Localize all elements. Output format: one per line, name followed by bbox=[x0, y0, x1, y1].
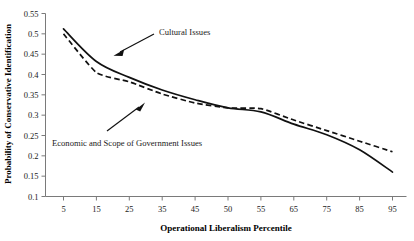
x-axis-title: Operational Liberalism Percentile bbox=[160, 223, 291, 233]
x-tick-label: 85 bbox=[355, 204, 364, 214]
y-tick-label: 0.55 bbox=[24, 9, 39, 19]
line-chart: Probability of Conservative Identificati… bbox=[0, 0, 414, 241]
x-tick-label: 15 bbox=[92, 204, 101, 214]
annotation-label-economic-scope-government: Economic and Scope of Government Issues bbox=[52, 138, 203, 148]
annotation-arrow-head-cultural bbox=[114, 50, 125, 56]
annotation-label-cultural-issues: Cultural Issues bbox=[159, 27, 211, 37]
y-axis-title: Probability of Conservative Identificati… bbox=[3, 24, 13, 184]
x-tick-label: 5 bbox=[61, 204, 65, 214]
y-tick-label: 0.4 bbox=[28, 70, 39, 80]
y-tick-label: 0.25 bbox=[24, 131, 39, 141]
x-tick-label: 55 bbox=[257, 204, 266, 214]
annotation-arrow-line-cultural bbox=[120, 34, 154, 52]
x-tick-label: 95 bbox=[388, 204, 397, 214]
y-tick-label: 0.5 bbox=[28, 29, 39, 39]
x-tick-label: 35 bbox=[158, 204, 167, 214]
chart-container: Probability of Conservative Identificati… bbox=[0, 0, 414, 241]
x-tick-label: 50 bbox=[224, 204, 233, 214]
y-tick-label: 0.2 bbox=[28, 151, 39, 161]
x-tick-label: 25 bbox=[125, 204, 134, 214]
x-axis-ticks: 515253545505565758595 bbox=[61, 197, 396, 214]
y-axis-ticks: 0.10.150.20.250.30.350.40.450.50.55 bbox=[24, 9, 46, 202]
series-line-cultural-issues bbox=[64, 29, 393, 172]
y-tick-label: 0.15 bbox=[24, 171, 39, 181]
series-line-economic-scope-government-issues bbox=[64, 34, 393, 152]
annotation-cultural-issues: Cultural Issues bbox=[114, 27, 211, 56]
y-tick-label: 0.1 bbox=[28, 192, 39, 202]
x-tick-label: 45 bbox=[191, 204, 200, 214]
annotation-arrow-line-economic bbox=[107, 107, 139, 131]
y-tick-label: 0.35 bbox=[24, 90, 39, 100]
x-tick-label: 65 bbox=[290, 204, 299, 214]
x-tick-label: 75 bbox=[322, 204, 331, 214]
y-tick-label: 0.3 bbox=[28, 110, 39, 120]
annotation-economic-scope-government: Economic and Scope of Government Issues bbox=[52, 103, 203, 149]
y-tick-label: 0.45 bbox=[24, 49, 39, 59]
annotation-arrow-head-economic bbox=[136, 103, 145, 112]
